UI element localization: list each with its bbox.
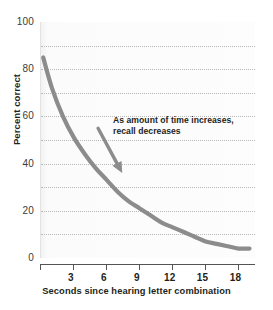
- x-tick-label: 6: [92, 272, 116, 283]
- x-tick-mark: [40, 264, 41, 270]
- x-tick-label: 12: [158, 272, 182, 283]
- x-tick-label: 9: [125, 272, 149, 283]
- chart-annotation: As amount of time increases, recall decr…: [113, 115, 263, 137]
- y-tick-label: 40: [4, 158, 34, 169]
- y-tick-label: 60: [4, 110, 34, 121]
- y-axis-tick-labels: 020406080100: [0, 0, 34, 310]
- plot-area: [40, 22, 255, 258]
- x-tick-mark: [238, 264, 239, 270]
- x-tick-mark: [205, 264, 206, 270]
- y-tick-label: 100: [4, 16, 34, 27]
- data-curve-svg: [41, 22, 255, 258]
- x-tick-mark: [106, 264, 107, 270]
- annotation-line-2: recall decreases: [113, 126, 263, 137]
- chart-figure: Percent correct 020406080100 As amount o…: [0, 0, 273, 310]
- x-tick-label: 18: [224, 272, 248, 283]
- y-tick-label: 20: [4, 205, 34, 216]
- recall-decay-curve: [43, 57, 249, 248]
- x-tick-label: 3: [59, 272, 83, 283]
- x-axis-title: Seconds since hearing letter combination: [0, 286, 273, 296]
- x-tick-mark: [139, 264, 140, 270]
- y-tick-label: 80: [4, 63, 34, 74]
- x-tick-label: 15: [191, 272, 215, 283]
- y-tick-label: 0: [4, 252, 34, 263]
- x-tick-mark: [172, 264, 173, 270]
- annotation-line-1: As amount of time increases,: [113, 115, 263, 126]
- x-tick-mark: [73, 264, 74, 270]
